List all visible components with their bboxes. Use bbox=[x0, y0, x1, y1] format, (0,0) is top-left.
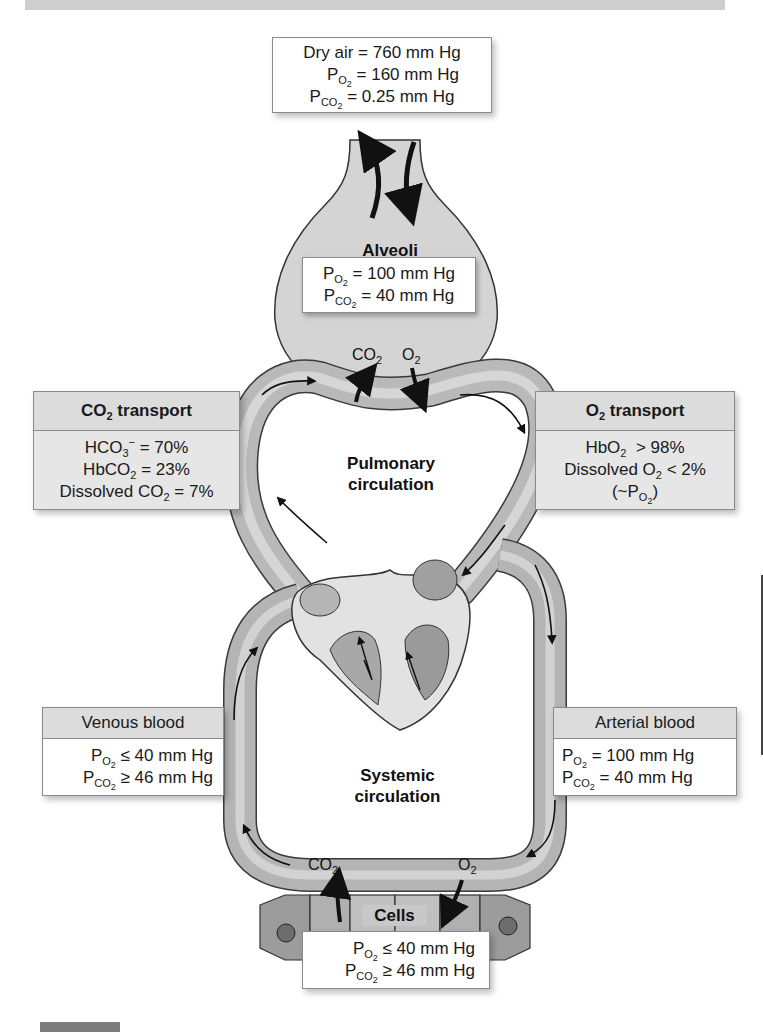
arterial-blood-box: Arterial blood PO2 = 100 mm Hg PCO2 = 40… bbox=[553, 707, 737, 796]
carbaminohemoglobin-row: HbCO2 = 23% bbox=[38, 459, 235, 481]
cells-label: Cells bbox=[362, 905, 427, 926]
alveoli-o2-label: O2 bbox=[402, 346, 421, 364]
venous-blood-title: Venous blood bbox=[43, 708, 223, 739]
cells-po2: PO2 ≤ 40 mm Hg bbox=[303, 938, 489, 960]
systemic-co2-label: CO2 bbox=[308, 856, 338, 874]
po2-proportional-row: (~PO2) bbox=[540, 481, 730, 503]
alveoli-po2: PO2 = 100 mm Hg bbox=[303, 263, 475, 285]
o2-transport-box: O2 transport HbO2 > 98% Dissolved O2 < 2… bbox=[535, 391, 735, 510]
cells-pco2: PCO2 ≥ 46 mm Hg bbox=[303, 960, 489, 982]
arterial-blood-title: Arterial blood bbox=[554, 708, 736, 739]
dissolved-o2-row: Dissolved O2 < 2% bbox=[540, 459, 730, 481]
alveoli-box: PO2 = 100 mm Hg PCO2 = 40 mm Hg bbox=[302, 257, 476, 313]
heart-shape bbox=[292, 560, 470, 730]
arterial-pco2: PCO2 = 40 mm Hg bbox=[562, 767, 732, 789]
alveoli-co2-label: CO2 bbox=[352, 346, 382, 364]
venous-pco2: PCO2 ≥ 46 mm Hg bbox=[47, 767, 213, 789]
flow-arrow bbox=[460, 395, 523, 430]
oxyhemoglobin-row: HbO2 > 98% bbox=[540, 437, 730, 459]
atmosphere-po2: PO2 = 160 mm Hg bbox=[273, 64, 491, 86]
alveoli-pco2: PCO2 = 40 mm Hg bbox=[303, 285, 475, 307]
bicarbonate-row: HCO3− = 70% bbox=[38, 437, 235, 459]
arterial-po2: PO2 = 100 mm Hg bbox=[562, 745, 732, 767]
circulation-diagram bbox=[0, 0, 763, 1034]
dry-air-line: Dry air = 760 mm Hg bbox=[273, 42, 491, 64]
co2-transport-title: CO2 transport bbox=[34, 392, 239, 431]
pulmonary-circulation-label: Pulmonary circulation bbox=[326, 453, 456, 495]
figure-caption-fragment bbox=[40, 1022, 120, 1032]
atmosphere-pco2: PCO2 = 0.25 mm Hg bbox=[273, 86, 491, 108]
cells-box: PO2 ≤ 40 mm Hg PCO2 ≥ 46 mm Hg bbox=[302, 931, 490, 989]
atmosphere-box: Dry air = 760 mm Hg PO2 = 160 mm Hg PCO2… bbox=[272, 37, 492, 113]
systemic-circulation-label: Systemic circulation bbox=[340, 765, 455, 807]
venous-blood-box: Venous blood PO2 ≤ 40 mm Hg PCO2 ≥ 46 mm… bbox=[42, 707, 224, 796]
dissolved-co2-row: Dissolved CO2 = 7% bbox=[38, 481, 235, 503]
systemic-o2-label: O2 bbox=[458, 856, 477, 874]
flow-arrow bbox=[280, 500, 327, 543]
o2-transport-title: O2 transport bbox=[536, 392, 734, 431]
venous-po2: PO2 ≤ 40 mm Hg bbox=[47, 745, 213, 767]
co2-transport-box: CO2 transport HCO3− = 70% HbCO2 = 23% Di… bbox=[33, 391, 240, 510]
